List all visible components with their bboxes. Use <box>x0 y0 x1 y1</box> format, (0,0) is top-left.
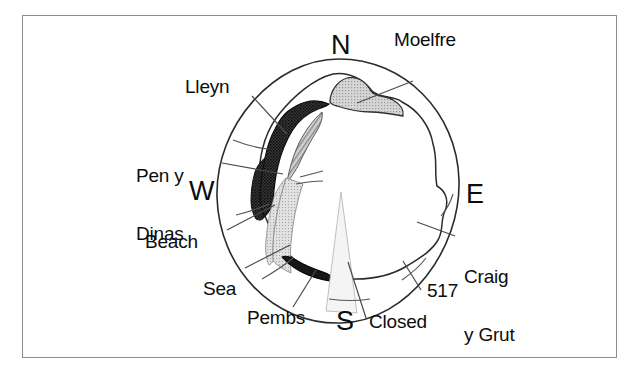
panorama-diagram <box>0 0 629 373</box>
label-craig-y-grut-line2: y Grut <box>464 325 515 344</box>
label-pen-y-dinas: Pen y Dinas <box>136 127 184 282</box>
label-pembs: Pembs <box>247 308 305 327</box>
label-closed: Closed <box>369 312 427 331</box>
label-craig-y-grut-line1: Craig <box>464 267 515 286</box>
cardinal-east: E <box>466 181 484 209</box>
label-sea: Sea <box>203 279 236 298</box>
cardinal-south: S <box>336 308 354 336</box>
figure-container: N E S W Moelfre Lleyn Pen y Dinas Beach … <box>0 0 629 373</box>
cardinal-north: N <box>331 32 350 60</box>
label-517: 517 <box>427 281 458 300</box>
label-beach: Beach <box>145 232 198 251</box>
region-moelfre <box>330 77 403 116</box>
region-closed-wedge <box>326 192 357 313</box>
label-moelfre: Moelfre <box>394 30 456 49</box>
cardinal-west: W <box>189 178 214 206</box>
label-craig-y-grut: Craig y Grut <box>464 228 515 373</box>
label-lleyn: Lleyn <box>185 77 229 96</box>
label-pen-y-dinas-line1: Pen y <box>136 166 184 185</box>
